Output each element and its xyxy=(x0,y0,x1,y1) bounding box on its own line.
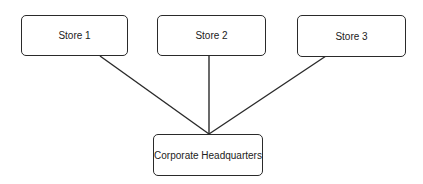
node-corporate-headquarters: Corporate Headquarters xyxy=(153,134,263,176)
node-store-3: Store 3 xyxy=(297,15,406,57)
node-label: Corporate Headquarters xyxy=(154,150,262,161)
node-label: Store 2 xyxy=(195,30,227,41)
node-store-2: Store 2 xyxy=(157,15,266,56)
node-label: Store 3 xyxy=(335,31,367,42)
edge-store3-hq xyxy=(209,56,326,134)
node-label: Store 1 xyxy=(58,30,90,41)
node-store-1: Store 1 xyxy=(21,15,128,56)
edge-store1-hq xyxy=(100,56,209,134)
